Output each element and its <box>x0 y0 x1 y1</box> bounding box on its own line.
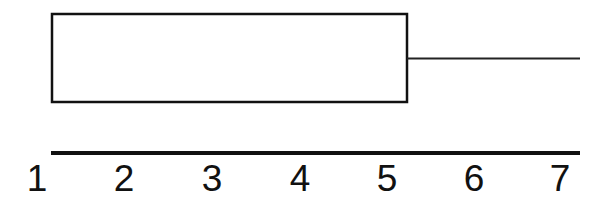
tick-label-6: 6 <box>464 160 485 197</box>
tick-label-3: 3 <box>202 160 223 197</box>
tick-label-5: 5 <box>377 160 398 197</box>
tick-label-4: 4 <box>290 160 311 197</box>
tick-label-2: 2 <box>114 160 135 197</box>
box-q1-q3 <box>52 14 407 102</box>
tick-label-7: 7 <box>550 160 571 197</box>
tick-label-1: 1 <box>27 160 48 197</box>
